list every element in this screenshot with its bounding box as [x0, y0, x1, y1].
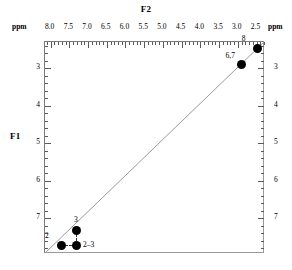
- tick-mark: [261, 203, 264, 204]
- f1-axis-title: F1: [10, 131, 20, 141]
- tick-mark: [234, 42, 235, 45]
- tick-mark: [258, 218, 264, 219]
- tick-mark: [204, 42, 205, 45]
- f1-tick-left-7: 7: [20, 212, 40, 222]
- tick-mark: [170, 42, 171, 45]
- peak-label-2-3: 2–3: [83, 240, 94, 249]
- tick-mark: [62, 42, 63, 45]
- tick-mark: [114, 42, 115, 45]
- tick-mark: [189, 42, 190, 45]
- tick-mark: [45, 218, 51, 219]
- tick-mark: [182, 42, 183, 48]
- tick-mark: [230, 42, 231, 45]
- nmr-spectrum-figure: F2 F1 ppm ppm 8.07.57.06.56.05.55.04.54.…: [0, 0, 292, 270]
- tick-mark: [261, 226, 264, 227]
- tick-mark: [133, 42, 134, 45]
- tick-mark: [81, 42, 82, 45]
- tick-mark: [54, 42, 55, 45]
- f1-tick-right-7: 7: [274, 212, 292, 222]
- tick-mark: [118, 42, 119, 45]
- peak-6,7: [237, 60, 246, 69]
- f2-unit-label-left: ppm: [12, 22, 27, 31]
- tick-mark: [223, 42, 224, 45]
- tick-mark: [99, 42, 100, 45]
- tick-mark: [261, 158, 264, 159]
- tick-mark: [122, 42, 123, 45]
- tick-mark: [261, 121, 264, 122]
- tick-mark: [69, 42, 70, 48]
- tick-mark: [261, 76, 264, 77]
- tick-mark: [185, 42, 186, 45]
- tick-mark: [178, 42, 179, 45]
- tick-mark: [47, 42, 48, 45]
- tick-mark: [45, 53, 48, 54]
- tick-mark: [45, 136, 48, 137]
- tick-mark: [45, 98, 48, 99]
- tick-mark: [111, 42, 112, 45]
- tick-mark: [45, 121, 48, 122]
- tick-mark: [88, 42, 89, 48]
- tick-mark: [174, 42, 175, 45]
- tick-mark: [152, 42, 153, 45]
- tick-mark: [45, 76, 48, 77]
- tick-mark: [125, 42, 126, 48]
- tick-mark: [45, 68, 51, 69]
- tick-mark: [261, 241, 264, 242]
- f1-tick-left-5: 5: [20, 137, 40, 147]
- tick-mark: [261, 91, 264, 92]
- tick-mark: [45, 211, 48, 212]
- tick-mark: [129, 42, 130, 45]
- tick-mark: [261, 53, 264, 54]
- tick-mark: [45, 151, 48, 152]
- tick-mark: [45, 181, 51, 182]
- tick-mark: [155, 42, 156, 45]
- f2-unit-label-right: ppm: [268, 22, 283, 31]
- tick-mark: [45, 83, 48, 84]
- tick-mark: [137, 42, 138, 45]
- tick-mark: [261, 211, 264, 212]
- tick-mark: [258, 106, 264, 107]
- peak-label-6,7: 6,7: [226, 51, 235, 60]
- tick-mark: [144, 42, 145, 48]
- tick-mark: [77, 42, 78, 45]
- tick-mark: [58, 42, 59, 45]
- tick-mark: [261, 151, 264, 152]
- tick-mark: [261, 83, 264, 84]
- tick-mark: [45, 241, 48, 242]
- tick-mark: [45, 158, 48, 159]
- tick-mark: [45, 188, 48, 189]
- peak-2: [57, 241, 66, 250]
- tick-mark: [261, 248, 264, 249]
- peak-label-8: 8: [242, 34, 246, 43]
- tick-mark: [215, 42, 216, 45]
- f2-axis-title: F2: [0, 4, 292, 14]
- f1-tick-right-3: 3: [274, 62, 292, 72]
- peak-8: [253, 44, 262, 53]
- plot-frame: 86,7322–3: [44, 41, 264, 253]
- tick-mark: [92, 42, 93, 45]
- tick-mark: [208, 42, 209, 45]
- tick-mark: [148, 42, 149, 45]
- tick-mark: [261, 166, 264, 167]
- tick-mark: [261, 196, 264, 197]
- tick-mark: [45, 91, 48, 92]
- tick-mark: [261, 128, 264, 129]
- tick-mark: [140, 42, 141, 45]
- tick-mark: [261, 136, 264, 137]
- tick-mark: [45, 203, 48, 204]
- tick-mark: [45, 113, 48, 114]
- tick-mark: [261, 98, 264, 99]
- f2-tick-2.5: 2.5: [245, 22, 267, 31]
- tick-mark: [238, 42, 239, 48]
- tick-mark: [45, 143, 51, 144]
- tick-mark: [45, 128, 48, 129]
- tick-mark: [258, 181, 264, 182]
- tick-mark: [45, 226, 48, 227]
- tick-mark: [163, 42, 164, 48]
- tick-mark: [45, 173, 48, 174]
- f1-tick-right-6: 6: [274, 175, 292, 185]
- peak-3: [72, 226, 81, 235]
- tick-mark: [66, 42, 67, 45]
- tick-mark: [45, 166, 48, 167]
- tick-mark: [258, 68, 264, 69]
